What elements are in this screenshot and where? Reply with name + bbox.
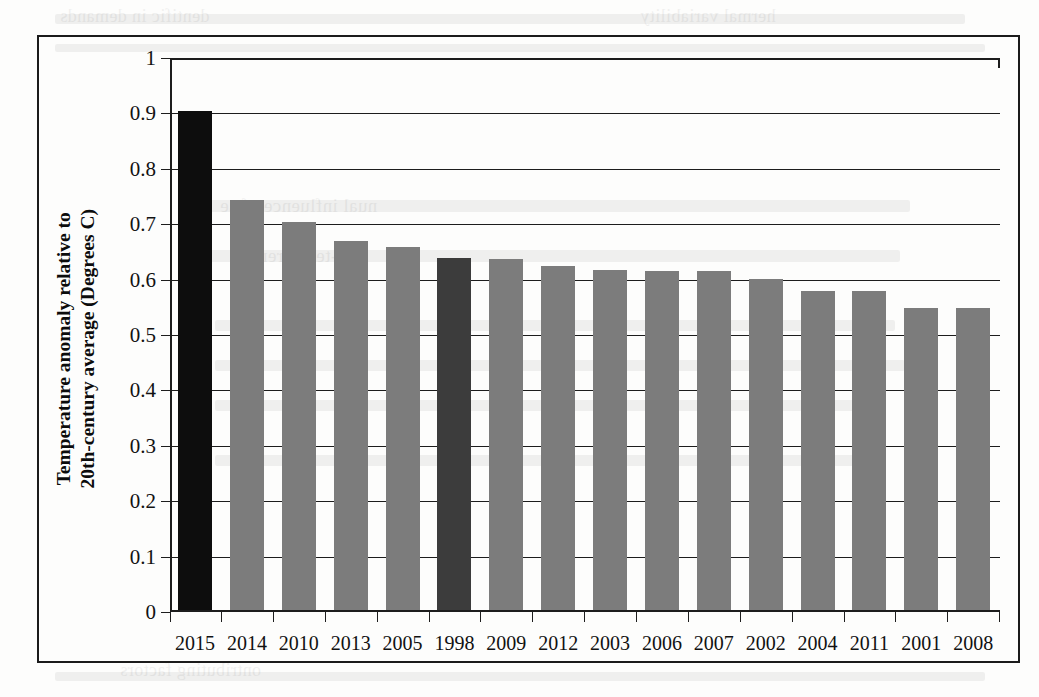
x-axis-label-1998: 1998 — [434, 632, 474, 655]
x-axis-tick — [740, 612, 741, 622]
bar-2009 — [489, 259, 523, 610]
y-axis-label: 0.7 — [130, 212, 156, 237]
bar-2002 — [749, 279, 783, 610]
x-axis-label-2001: 2001 — [901, 632, 941, 655]
y-axis-tick — [161, 113, 170, 114]
bar-2007 — [697, 271, 731, 610]
x-axis-tick — [792, 612, 793, 622]
y-axis-label: 0.4 — [130, 378, 156, 403]
y-axis-label: 0.6 — [130, 267, 156, 292]
x-axis-tick — [999, 612, 1000, 622]
x-axis-label-2006: 2006 — [642, 632, 682, 655]
x-axis-label-2007: 2007 — [694, 632, 734, 655]
bar-2006 — [645, 271, 679, 610]
bar-2001 — [904, 308, 938, 610]
bar-1998 — [437, 258, 471, 610]
plot-area: 10.90.80.70.60.50.40.30.20.10 2015201420… — [170, 58, 1000, 612]
x-axis-label-2003: 2003 — [590, 632, 630, 655]
x-axis-label-2005: 2005 — [383, 632, 423, 655]
x-axis-label-2009: 2009 — [486, 632, 526, 655]
bar-2003 — [593, 270, 627, 610]
x-axis-tick — [584, 612, 585, 622]
y-axis-label: 0 — [146, 600, 157, 625]
x-axis-tick — [480, 612, 481, 622]
x-axis-label-2015: 2015 — [175, 632, 215, 655]
y-axis-label: 0.9 — [130, 101, 156, 126]
x-axis-tick — [273, 612, 274, 622]
y-axis-tick — [161, 446, 170, 447]
bar-2014 — [230, 200, 264, 610]
x-axis-label-2008: 2008 — [953, 632, 993, 655]
bar-2015 — [178, 111, 212, 610]
y-axis-tick — [161, 58, 170, 59]
x-axis-tick — [377, 612, 378, 622]
y-axis-label: 0.5 — [130, 323, 156, 348]
bar-2008 — [956, 308, 990, 610]
y-axis-tick — [161, 501, 170, 502]
y-axis-tick — [161, 224, 170, 225]
bar-2012 — [541, 266, 575, 610]
x-axis-tick — [895, 612, 896, 622]
x-axis-tick — [947, 612, 948, 622]
y-axis-tick — [161, 280, 170, 281]
x-axis-tick — [325, 612, 326, 622]
y-axis-label: 1 — [146, 46, 157, 71]
x-axis-tick — [844, 612, 845, 622]
y-axis-label: 0.1 — [130, 544, 156, 569]
bar-2005 — [386, 247, 420, 610]
x-axis-tick — [532, 612, 533, 622]
bar-2013 — [334, 241, 368, 610]
bar-2004 — [801, 291, 835, 610]
bars-layer — [170, 58, 1000, 612]
y-axis-tick — [161, 557, 170, 558]
x-axis-tick-origin — [170, 612, 171, 622]
bar-2011 — [852, 291, 886, 610]
x-axis-label-2010: 2010 — [279, 632, 319, 655]
x-axis-tick — [429, 612, 430, 622]
y-axis-label: 0.3 — [130, 433, 156, 458]
y-axis-tick — [161, 612, 170, 613]
x-axis-tick — [636, 612, 637, 622]
x-axis-tick — [221, 612, 222, 622]
y-axis-label: 0.2 — [130, 489, 156, 514]
bar-2010 — [282, 222, 316, 610]
y-axis-tick — [161, 390, 170, 391]
x-axis-label-2004: 2004 — [798, 632, 838, 655]
y-axis-tick — [161, 335, 170, 336]
x-axis-label-2011: 2011 — [850, 632, 889, 655]
x-axis-label-2012: 2012 — [538, 632, 578, 655]
x-axis-label-2014: 2014 — [227, 632, 267, 655]
y-axis-tick — [161, 169, 170, 170]
x-axis-tick — [688, 612, 689, 622]
x-axis-label-2002: 2002 — [746, 632, 786, 655]
x-axis-label-2013: 2013 — [331, 632, 371, 655]
y-axis-label: 0.8 — [130, 156, 156, 181]
